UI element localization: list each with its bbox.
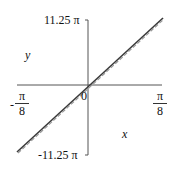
plot-canvas	[0, 0, 170, 172]
origin-label: 0	[81, 90, 87, 102]
x-min-sign: -	[10, 99, 14, 111]
y-min-tick-label: -11.25 π	[38, 149, 78, 161]
x-min-denominator: 8	[15, 104, 29, 117]
x-axis-label: x	[122, 128, 127, 140]
x-max-numerator: π	[153, 90, 167, 104]
series-dashed-line	[18, 19, 164, 153]
y-max-tick-label: 11.25 π	[44, 14, 80, 26]
y-axis-label: y	[25, 49, 30, 61]
x-max-tick-label: π 8	[153, 90, 167, 117]
x-min-tick-label: π 8	[15, 90, 29, 117]
x-min-numerator: π	[15, 90, 29, 104]
x-max-denominator: 8	[153, 104, 167, 117]
